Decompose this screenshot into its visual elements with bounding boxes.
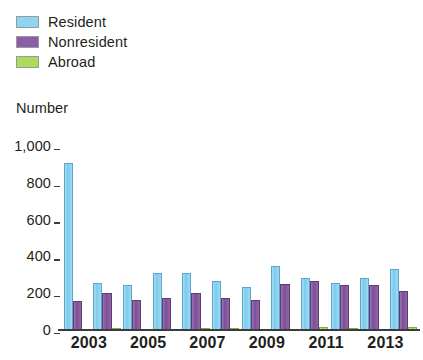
bar-nonresident bbox=[132, 300, 141, 330]
x-axis-label: 2003 bbox=[71, 334, 107, 352]
bar-resident bbox=[93, 283, 102, 330]
bar-nonresident bbox=[369, 285, 378, 330]
bar-group bbox=[360, 146, 390, 330]
bar-group bbox=[93, 146, 123, 330]
bar-resident bbox=[242, 287, 251, 330]
bar-resident bbox=[390, 269, 399, 330]
bar-resident bbox=[271, 266, 280, 330]
bar-resident bbox=[212, 281, 221, 330]
x-axis-label: 2013 bbox=[367, 334, 403, 352]
bar-nonresident bbox=[162, 298, 171, 330]
y-axis-title: Number bbox=[16, 100, 68, 116]
bar-nonresident bbox=[340, 285, 349, 330]
chart-legend: Resident Nonresident Abroad bbox=[16, 12, 127, 72]
bar-nonresident bbox=[102, 293, 111, 330]
bar-group bbox=[182, 146, 212, 330]
plot-area bbox=[62, 146, 418, 330]
bar-nonresident bbox=[310, 281, 319, 330]
legend-swatch-resident bbox=[16, 16, 39, 28]
y-tick-mark bbox=[54, 333, 60, 335]
y-tick: 600 bbox=[27, 212, 61, 228]
x-axis-labels: 200320052007200920112013 bbox=[62, 334, 418, 360]
y-tick-label: 600 bbox=[27, 212, 52, 228]
bar-group bbox=[242, 146, 272, 330]
bar-chart: Resident Nonresident Abroad Number 1,000… bbox=[0, 0, 423, 360]
y-tick-label: 1,000 bbox=[14, 138, 51, 154]
bar-nonresident bbox=[221, 298, 230, 330]
bar-group bbox=[212, 146, 242, 330]
bar-resident bbox=[301, 278, 310, 330]
bar-group bbox=[331, 146, 361, 330]
bar-group bbox=[153, 146, 183, 330]
bar-nonresident bbox=[191, 293, 200, 330]
legend-label-abroad: Abroad bbox=[48, 55, 95, 70]
legend-item-resident: Resident bbox=[16, 12, 127, 32]
y-tick: 800 bbox=[27, 175, 61, 191]
bar-resident bbox=[360, 278, 369, 330]
x-axis-label: 2009 bbox=[249, 334, 285, 352]
x-axis-label: 2007 bbox=[189, 334, 225, 352]
legend-label-nonresident: Nonresident bbox=[48, 35, 127, 50]
y-tick-mark bbox=[54, 149, 60, 151]
bar-group bbox=[64, 146, 94, 330]
bar-group bbox=[390, 146, 420, 330]
legend-swatch-abroad bbox=[16, 56, 39, 68]
y-tick: 400 bbox=[27, 248, 61, 264]
bar-group bbox=[271, 146, 301, 330]
bar-nonresident bbox=[280, 284, 289, 330]
bar-resident bbox=[153, 273, 162, 330]
bar-nonresident bbox=[73, 301, 82, 330]
bar-nonresident bbox=[399, 291, 408, 330]
y-tick-label: 400 bbox=[27, 248, 52, 264]
y-tick-mark bbox=[54, 259, 60, 261]
y-tick-label: 0 bbox=[43, 322, 51, 338]
legend-swatch-nonresident bbox=[16, 36, 39, 48]
x-axis-baseline bbox=[58, 329, 420, 331]
bar-group bbox=[301, 146, 331, 330]
bar-nonresident bbox=[251, 300, 260, 330]
x-axis-label: 2011 bbox=[308, 334, 344, 352]
y-tick-mark bbox=[54, 186, 60, 188]
y-axis: 1,0008006004002000 bbox=[0, 140, 60, 335]
bar-group bbox=[123, 146, 153, 330]
x-axis-label: 2005 bbox=[130, 334, 166, 352]
legend-label-resident: Resident bbox=[48, 15, 106, 30]
bar-resident bbox=[182, 273, 191, 330]
legend-item-abroad: Abroad bbox=[16, 52, 127, 72]
y-tick: 200 bbox=[27, 285, 61, 301]
y-tick-mark bbox=[54, 296, 60, 298]
y-tick-mark bbox=[54, 222, 60, 224]
bar-resident bbox=[64, 163, 73, 330]
y-tick-label: 800 bbox=[27, 175, 52, 191]
y-tick-label: 200 bbox=[27, 285, 52, 301]
bar-resident bbox=[331, 283, 340, 330]
y-tick: 1,000 bbox=[14, 138, 60, 154]
bar-resident bbox=[123, 285, 132, 330]
legend-item-nonresident: Nonresident bbox=[16, 32, 127, 52]
